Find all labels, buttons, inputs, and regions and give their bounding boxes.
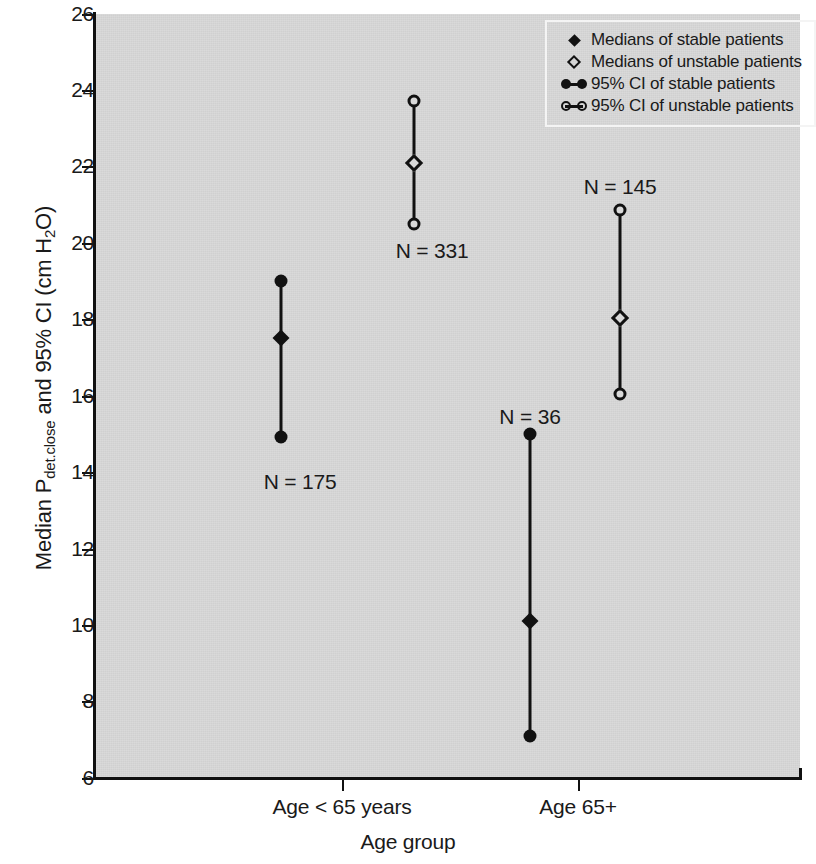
ci-upper-marker [524, 428, 537, 441]
legend-item-label: 95% CI of unstable patients [591, 96, 794, 116]
legend: Medians of stable patients Medians of un… [545, 20, 816, 127]
legend-item-ci-stable: 95% CI of stable patients [557, 73, 802, 95]
n-annotation: N = 145 [584, 175, 657, 199]
x-tick-mark-age-under-65 [342, 778, 344, 791]
open-diamond-icon [557, 51, 591, 73]
x-tick-label-age-under-65: Age < 65 years [272, 795, 411, 819]
ci-lower-marker [524, 730, 537, 743]
y-axis-title-subscript-2: 2 [41, 230, 58, 238]
ci-line [280, 281, 283, 437]
legend-item-medians-unstable: Medians of unstable patients [557, 51, 802, 73]
legend-item-ci-unstable: 95% CI of unstable patients [557, 95, 802, 117]
open-ci-bar-icon [557, 95, 591, 117]
legend-item-label: Medians of unstable patients [591, 52, 802, 72]
ci-upper-marker [408, 95, 421, 108]
y-axis-title-prefix: Median P [31, 479, 56, 570]
ci-upper-marker [275, 275, 288, 288]
x-axis-end-cap [799, 768, 802, 780]
plot-area [95, 14, 800, 778]
y-tick-label: 6 [50, 767, 94, 788]
x-tick-label-age-65-plus: Age 65+ [539, 795, 616, 819]
legend-item-label: 95% CI of stable patients [591, 74, 775, 94]
ci-lower-marker [275, 431, 288, 444]
filled-diamond-icon [557, 29, 591, 51]
x-tick-mark-age-65-plus [578, 778, 580, 791]
n-annotation: N = 36 [499, 405, 560, 429]
y-axis-title-end: O) [31, 206, 56, 230]
y-axis-title: Median Pdet.close and 95% CI (cm H2O) [31, 8, 57, 768]
legend-item-label: Medians of stable patients [591, 30, 783, 50]
y-axis-title-suffix: and 95% CI (cm H [31, 238, 56, 420]
ci-lower-marker [614, 388, 627, 401]
n-annotation: N = 331 [396, 239, 469, 263]
ci-lower-marker [408, 218, 421, 231]
filled-ci-bar-icon [557, 73, 591, 95]
n-annotation: N = 175 [264, 470, 337, 494]
legend-item-medians-stable: Medians of stable patients [557, 29, 802, 51]
ci-upper-marker [614, 204, 627, 217]
chart-figure: 26 24 22 20 18 16 14 12 10 8 6 Median Pd… [0, 0, 816, 864]
y-axis-title-subscript: det.close [41, 421, 58, 479]
x-axis-line [93, 777, 802, 780]
ci-line [619, 210, 622, 394]
ci-line [529, 434, 532, 736]
x-axis-title: Age group [0, 830, 816, 854]
